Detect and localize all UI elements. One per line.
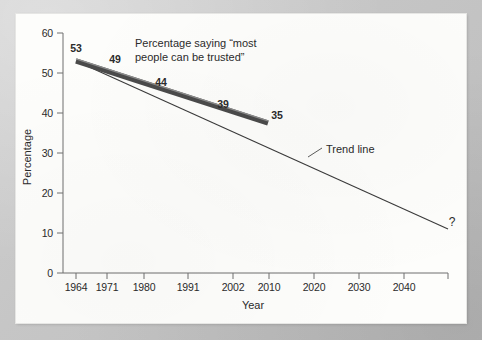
y-tick-label-30: 30 bbox=[42, 147, 54, 159]
screenshot-page: 60 50 40 30 20 10 0 bbox=[0, 0, 482, 340]
x-tick-label-2040: 2040 bbox=[393, 281, 416, 293]
data-label-1964: 53 bbox=[70, 42, 82, 54]
data-label-1980: 44 bbox=[155, 76, 167, 88]
y-tick-label-10: 10 bbox=[42, 227, 54, 239]
data-label-1971: 49 bbox=[109, 53, 121, 65]
x-tick-label-1991: 1991 bbox=[177, 281, 200, 293]
data-label-1991: 39 bbox=[217, 98, 229, 110]
data-label-2002: 35 bbox=[271, 109, 283, 121]
annotation-line-1: Percentage saying “most bbox=[135, 37, 257, 49]
x-tick-label-2002: 2002 bbox=[222, 281, 245, 293]
trend-line-projected bbox=[76, 61, 448, 229]
x-tick-label-2020: 2020 bbox=[303, 281, 326, 293]
x-tick-label-1964: 1964 bbox=[65, 281, 88, 293]
x-axis bbox=[63, 273, 448, 279]
y-tick-label-20: 20 bbox=[42, 187, 54, 199]
observed-data-line bbox=[76, 59, 268, 123]
x-tick-label-2010: 2010 bbox=[258, 281, 281, 293]
y-tick-label-60: 60 bbox=[42, 27, 54, 39]
trend-line-callout-label: Trend line bbox=[326, 143, 375, 155]
question-mark-label: ? bbox=[449, 215, 456, 229]
trend-line-callout: Trend line bbox=[308, 143, 375, 157]
chart-canvas: 60 50 40 30 20 10 0 bbox=[16, 14, 466, 323]
x-tick-label-2030: 2030 bbox=[348, 281, 371, 293]
y-axis-title: Percentage bbox=[21, 129, 33, 185]
y-tick-label-50: 50 bbox=[42, 67, 54, 79]
x-tick-label-1971: 1971 bbox=[96, 281, 119, 293]
x-tick-labels: 1964 1971 1980 1991 2002 2010 2020 2030 … bbox=[65, 281, 416, 293]
y-axis bbox=[57, 33, 63, 273]
figure-panel: 60 50 40 30 20 10 0 bbox=[16, 14, 466, 323]
y-tick-labels: 60 50 40 30 20 10 0 bbox=[42, 27, 54, 279]
x-tick-label-1980: 1980 bbox=[133, 281, 156, 293]
chart-annotation-callout: Percentage saying “most people can be tr… bbox=[135, 37, 257, 63]
y-tick-label-40: 40 bbox=[42, 107, 54, 119]
annotation-line-2: people can be trusted” bbox=[135, 51, 245, 63]
y-tick-label-0: 0 bbox=[47, 267, 53, 279]
x-axis-title: Year bbox=[242, 299, 265, 311]
